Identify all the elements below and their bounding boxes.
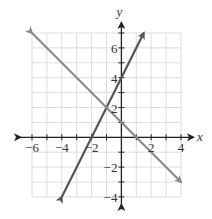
x-tick-label: 4 <box>178 140 185 155</box>
y-tick-label: 4 <box>111 71 118 86</box>
y-tick-label: −4 <box>104 190 118 205</box>
x-tick-label: −6 <box>25 140 39 155</box>
y-tick-label: −2 <box>104 160 118 175</box>
y-axis-label: y <box>115 4 123 19</box>
coordinate-graph: −6−4−224642−2−4xy <box>0 0 212 219</box>
y-tick-label: 6 <box>111 41 118 56</box>
y-tick-label: 2 <box>111 101 118 116</box>
tick-labels: −6−4−224642−2−4xy <box>25 4 203 205</box>
x-axis-label: x <box>196 129 203 144</box>
x-tick-label: −2 <box>85 140 99 155</box>
x-tick-label: −4 <box>55 140 69 155</box>
x-tick-label: 2 <box>148 140 155 155</box>
